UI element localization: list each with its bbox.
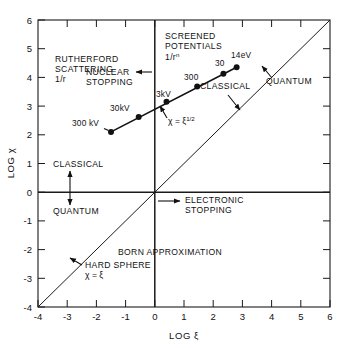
- label-screened-line2: POTENTIALS: [165, 41, 222, 51]
- y-tick-label: 6: [27, 15, 32, 26]
- y-tick-label: 5: [27, 43, 32, 54]
- x-tick-label: 3: [240, 311, 245, 322]
- x-axis-ticks-top: [67, 20, 301, 27]
- point-label-300kv: 300 kV: [72, 118, 99, 128]
- label-nuclear-line2: STOPPING: [86, 77, 133, 87]
- y-tick-label: 3: [27, 101, 32, 112]
- x-tick-label: 5: [298, 311, 303, 322]
- data-point-14ev: [234, 64, 240, 70]
- point-label-3kv: 3kV: [156, 89, 171, 99]
- label-quantum-upper: QUANTUM: [266, 76, 312, 86]
- x-tick-label: 0: [152, 311, 157, 322]
- label-hard-sphere: HARD SPHERE: [85, 260, 151, 270]
- label-electronic-line2: STOPPING: [185, 205, 232, 215]
- label-classical-left: CLASSICAL: [53, 159, 103, 169]
- x-tick-label: 2: [211, 311, 216, 322]
- y-tick-label: 2: [27, 129, 32, 140]
- y-tick-label: -3: [24, 273, 32, 284]
- x-tick-label: -4: [34, 311, 42, 322]
- x-axis-ticks: [38, 300, 330, 307]
- x-tick-label: -3: [63, 311, 71, 322]
- data-point-30: [220, 71, 226, 77]
- data-point-300kv: [108, 129, 114, 135]
- label-electronic-line1: ELECTRONIC: [185, 195, 244, 205]
- x-tick-label: -1: [121, 311, 129, 322]
- label-quantum-left: QUANTUM: [53, 206, 99, 216]
- y-axis-ticks: [38, 20, 45, 307]
- point-label-14ev: 14eV: [231, 50, 251, 60]
- arrow-hard-sphere: [70, 258, 82, 265]
- y-tick-label: 1: [27, 158, 32, 169]
- figure-container: 300 kV 30kV 3kV 300 30 14eV RUTHERFORD S…: [0, 0, 343, 348]
- point-label-300: 300: [184, 72, 199, 82]
- chart-canvas: 300 kV 30kV 3kV 300 30 14eV RUTHERFORD S…: [0, 0, 343, 348]
- label-classical-upper: CLASSICAL: [200, 81, 250, 91]
- x-tick-label: 6: [327, 311, 332, 322]
- label-screened-line1: SCREENED: [165, 31, 216, 41]
- label-rutherford-line3: 1/r: [55, 74, 66, 84]
- arrow-classical-upper: [228, 95, 240, 110]
- x-axis-title: LOG ξ: [169, 330, 199, 341]
- label-born-approximation: BORN APPROXIMATION: [118, 247, 222, 257]
- data-point-3kv: [164, 99, 170, 105]
- y-tick-label: -2: [24, 244, 32, 255]
- x-tick-label: 1: [181, 311, 186, 322]
- point-label-30kv: 30kV: [110, 103, 130, 113]
- label-nuclear-line1: NUCLEAR: [86, 67, 130, 77]
- label-eq-sqrt: χ = ξ1/2: [168, 115, 195, 127]
- label-screened-line3: 1/rn: [165, 51, 180, 63]
- leader-eq-sqrt: [160, 106, 167, 118]
- y-tick-labels: 6 5 4 3 2 1 0 -1 -2 -3 -4: [24, 15, 32, 313]
- y-tick-label: -1: [24, 215, 32, 226]
- data-point-30kv: [136, 114, 142, 120]
- y-tick-label: 4: [27, 72, 32, 83]
- y-tick-label: 0: [27, 187, 32, 198]
- label-rutherford-line1: RUTHERFORD: [55, 54, 119, 64]
- y-tick-label: -4: [24, 302, 32, 313]
- x-tick-labels: -4 -3 -2 -1 0 1 2 3 4 5 6: [34, 311, 333, 322]
- label-eq-linear: χ = ξ: [85, 270, 103, 280]
- x-tick-label: 4: [269, 311, 274, 322]
- point-label-30: 30: [215, 58, 225, 68]
- y-axis-title: LOG χ: [5, 148, 16, 179]
- x-tick-label: -2: [92, 311, 100, 322]
- y-axis-ticks-right: [323, 49, 330, 279]
- leader-300kv: [104, 129, 109, 131]
